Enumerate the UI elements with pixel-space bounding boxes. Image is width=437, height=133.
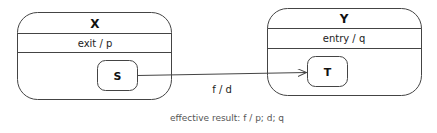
state-y: Y entry / q T — [268, 9, 422, 96]
transition-label: f / d — [212, 84, 232, 95]
state-diagram: X exit / p S Y entry / q T f / d effecti… — [0, 0, 437, 133]
substate-s: S — [98, 61, 138, 91]
state-x: X exit / p S — [18, 13, 172, 100]
substate-t: T — [308, 57, 348, 87]
state-y-title: Y — [339, 12, 349, 26]
state-x-title: X — [90, 17, 100, 31]
substate-s-label: S — [114, 70, 122, 83]
substate-t-label: T — [324, 66, 332, 79]
state-x-exit-action: exit / p — [78, 38, 113, 49]
state-y-entry-action: entry / q — [323, 33, 366, 44]
effective-result-caption: effective result: f / p; d; q — [170, 113, 284, 123]
